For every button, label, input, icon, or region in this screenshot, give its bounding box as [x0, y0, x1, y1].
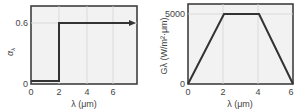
right-plot-area [188, 4, 293, 84]
svg-text:Gλ (W/m²·μm): Gλ (W/m²·μm) [159, 17, 169, 74]
x-tick-4: 4 [255, 87, 260, 97]
y-tick-0.6: 0.6 [15, 18, 28, 28]
y-axis-label: αλ [5, 48, 16, 56]
left-plot-area [31, 6, 137, 84]
y-tick-0: 0 [180, 79, 185, 89]
x-axis-label: λ (μm) [71, 99, 97, 109]
left-chart: 0.6 0 0 2 4 6 λ (μm) αλ [5, 6, 137, 109]
y-axis-label: Gλ (W/m²·μm) [159, 17, 169, 74]
x-tick-2: 2 [220, 87, 225, 97]
x-tick-4: 4 [84, 87, 89, 97]
x-tick-6: 6 [110, 87, 115, 97]
x-tick-0: 0 [28, 87, 33, 97]
figure: 0.6 0 0 2 4 6 λ (μm) αλ 5000 0 0 2 4 6 λ… [0, 0, 297, 111]
svg-text:αλ: αλ [5, 48, 16, 56]
x-tick-6: 6 [288, 87, 293, 97]
x-axis-label: λ (μm) [227, 99, 253, 109]
x-tick-2: 2 [56, 87, 61, 97]
y-tick-0: 0 [23, 79, 28, 89]
x-tick-0: 0 [185, 87, 190, 97]
right-chart: 5000 0 0 2 4 6 λ (μm) Gλ (W/m²·μm) [159, 4, 294, 109]
